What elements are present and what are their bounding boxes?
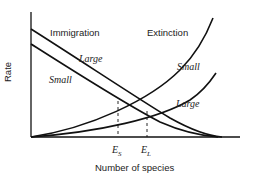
el-tick-label: EL — [141, 144, 151, 158]
x-axis-label: Number of species — [95, 162, 174, 173]
chart-canvas — [0, 0, 253, 188]
immigration-large-label: Large — [79, 53, 103, 64]
es-tick-label: ES — [112, 144, 122, 158]
extinction-label: Extinction — [147, 27, 188, 38]
extinction-small-label: Small — [177, 61, 200, 72]
extinction-large-label: Large — [176, 98, 200, 109]
immigration-small-label: Small — [49, 74, 72, 85]
y-axis-label: Rate — [2, 62, 13, 82]
immigration-label: Immigration — [50, 27, 100, 38]
